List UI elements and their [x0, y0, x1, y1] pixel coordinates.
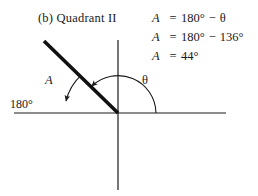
quadrant-ii-figure: (b) Quadrant II A = 180° − θ A = 180° − …: [0, 0, 258, 196]
angle-label-theta: θ: [142, 74, 148, 87]
angle-diagram-svg: [0, 0, 258, 196]
axis-label-180-degrees: 180°: [10, 98, 33, 110]
angle-label-a: A: [45, 74, 53, 87]
reference-angle-arc: [66, 76, 81, 101]
